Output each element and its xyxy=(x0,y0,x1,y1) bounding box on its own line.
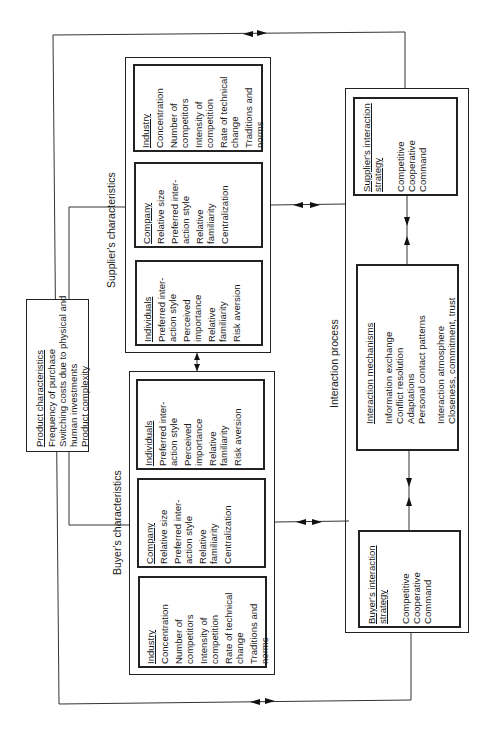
supplier-strategy-title: Supplier's interaction xyxy=(361,103,372,192)
supplier-company-item: action style xyxy=(180,179,191,244)
interaction-process-label: Interaction process xyxy=(328,319,340,408)
buyer-individuals-item: Perceived xyxy=(182,401,193,466)
supplier-industry-box: Industry Concentration Number of competi… xyxy=(133,64,263,152)
buyer-company-title: Company xyxy=(144,499,155,564)
supplier-individuals-item: familiarity xyxy=(217,277,228,342)
buyer-company-item: Relative size xyxy=(158,499,169,564)
supplier-individuals-item: Preferred inter- xyxy=(156,277,167,342)
product-item: Product complexity xyxy=(79,296,90,447)
buyer-individuals-item: Relative xyxy=(207,401,218,466)
supplier-strategy-item: Command xyxy=(417,103,428,192)
buyer-strategy-item: Competitive xyxy=(400,545,411,624)
interaction-mechanisms-title: Interaction mechanisms xyxy=(364,298,375,424)
buyer-strategy-title-2: strategy xyxy=(377,545,388,624)
supplier-industry-title: Industry xyxy=(140,77,151,148)
buyer-individuals-title: Individuals xyxy=(143,401,154,466)
product-characteristics-box: Product characteristics Frequency of pur… xyxy=(26,299,89,452)
supplier-individuals-item: action style xyxy=(167,277,178,342)
buyer-strategy-title: Buyer's interaction xyxy=(366,545,377,624)
supplier-industry-item: change xyxy=(229,77,240,148)
supplier-company-item: Relative xyxy=(194,179,205,244)
buyer-strategy-item: Cooperative xyxy=(411,545,422,624)
supplier-strategy-item: Cooperative xyxy=(406,103,417,192)
buyer-industry-item: Intensity of xyxy=(198,593,209,664)
mechanism-item: Conflict resolution xyxy=(394,298,405,424)
atmosphere-item: Closeness, commitment, trust xyxy=(446,298,457,424)
buyer-company-box: Company Relative size Preferred inter- a… xyxy=(137,478,266,568)
interaction-atmosphere-title: Interaction atmosphere xyxy=(435,298,446,424)
buyer-company-item: Centralization xyxy=(222,499,233,564)
buyer-individuals-item: familiarity xyxy=(218,401,229,466)
buyer-company-item: familiarity xyxy=(208,499,219,564)
supplier-strategy-item: Competitive xyxy=(395,103,406,192)
supplier-industry-item: Intensity of xyxy=(193,77,204,148)
supplier-industry-item: Concentration xyxy=(154,77,165,148)
supplier-individuals-item: Risk aversion xyxy=(231,277,242,342)
buyer-company-item: action style xyxy=(183,499,194,564)
supplier-individuals-item: importance xyxy=(192,277,203,342)
supplier-individuals-title: Individuals xyxy=(142,277,153,342)
mechanism-item: Adaptations xyxy=(405,298,416,424)
supplier-industry-item: norms xyxy=(254,77,265,148)
supplier-company-item: Relative size xyxy=(155,179,166,244)
buyer-individuals-item: action style xyxy=(168,401,179,466)
buyer-industry-item: Rate of technical xyxy=(223,593,234,664)
supplier-individuals-item: Perceived xyxy=(181,277,192,342)
product-characteristics-title: Product characteristics xyxy=(34,296,45,447)
buyer-industry-box: Industry Concentration Number of competi… xyxy=(138,576,267,668)
buyer-individuals-item: Preferred inter- xyxy=(157,401,168,466)
product-item: Switching costs due to physical and xyxy=(57,296,68,447)
buyer-company-item: Preferred inter- xyxy=(172,499,183,564)
supplier-industry-item: Number of xyxy=(168,77,179,148)
product-item: human investments xyxy=(68,296,79,447)
supplier-company-box: Company Relative size Preferred inter- a… xyxy=(134,162,263,248)
supplier-strategy-box: Supplier's interaction strategy Competit… xyxy=(353,97,458,196)
mechanism-item: Information exchange xyxy=(383,298,394,424)
mechanism-item: Personal contact patterns xyxy=(416,298,427,424)
buyer-industry-item: competition xyxy=(209,593,220,664)
supplier-individuals-item: Relative xyxy=(206,277,217,342)
buyer-industry-title: Industry xyxy=(145,593,156,664)
buyer-individuals-item: importance xyxy=(193,401,204,466)
supplier-industry-item: competition xyxy=(204,77,215,148)
supplier-company-title: Company xyxy=(141,179,152,244)
buyer-industry-item: Concentration xyxy=(159,593,170,664)
supplier-industry-item: competitors xyxy=(179,77,190,148)
supplier-characteristics-label: Supplier's characteristics xyxy=(105,172,117,288)
buyer-industry-item: change xyxy=(234,593,245,664)
buyer-industry-item: norms xyxy=(259,593,270,664)
buyer-company-item: Relative xyxy=(197,499,208,564)
supplier-individuals-box: Individuals Preferred inter- action styl… xyxy=(135,260,263,346)
supplier-company-item: Preferred inter- xyxy=(169,179,180,244)
supplier-company-item: Centralization xyxy=(219,179,230,244)
supplier-company-item: familiarity xyxy=(205,179,216,244)
product-item: Frequency of purchase xyxy=(46,296,57,447)
supplier-strategy-title-2: strategy xyxy=(372,103,383,192)
supplier-industry-item: Rate of technical xyxy=(218,77,229,148)
buyer-industry-item: Number of xyxy=(173,593,184,664)
interaction-mechanisms-box: Interaction mechanisms Information excha… xyxy=(356,264,459,451)
buyer-individuals-item: Risk aversion xyxy=(232,401,243,466)
buyer-industry-item: Traditions and xyxy=(248,593,259,664)
supplier-industry-item: Traditions and xyxy=(243,77,254,148)
buyer-industry-item: competitors xyxy=(184,593,195,664)
buyer-strategy-box: Buyer's interaction strategy Competitive… xyxy=(358,530,461,628)
buyer-individuals-box: Individuals Preferred inter- action styl… xyxy=(136,379,265,470)
buyer-characteristics-label: Buyer's characteristics xyxy=(111,470,123,575)
buyer-strategy-item: Command xyxy=(422,545,433,624)
